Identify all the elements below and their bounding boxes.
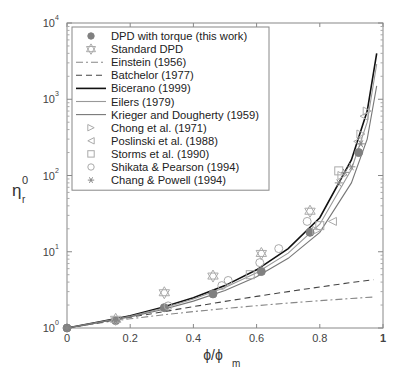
y-tick-exponent: 2	[55, 167, 59, 174]
legend-label: Batchelor (1977)	[111, 69, 194, 81]
chart: 00.20.40.60.81100101102103104 DPD with t…	[0, 0, 407, 376]
marker-hexagram	[208, 270, 218, 279]
y-axis-label-sub: r	[22, 194, 26, 205]
legend-label: Poslinski et al. (1988)	[111, 135, 218, 147]
y-tick-exponent: 1	[55, 243, 59, 250]
x-tick-label: 0.8	[312, 332, 327, 344]
y-tick-label: 10	[43, 170, 55, 182]
marker-hexagram	[256, 247, 266, 256]
marker-filled-circle	[209, 290, 217, 298]
x-tick-label: 0.6	[249, 332, 264, 344]
marker-hexagram	[305, 208, 315, 217]
legend-label: Shikata & Pearson (1994)	[111, 161, 239, 173]
x-tick-label: 1	[380, 332, 386, 344]
x-tick-label: 0.4	[186, 332, 201, 344]
marker-filled-circle	[257, 268, 265, 276]
y-axis-label-sup: 0	[22, 174, 28, 186]
x-axis-label: ϕ/ϕ	[203, 347, 223, 363]
x-axis-label-sub: m	[232, 358, 240, 369]
marker-hexagram	[256, 250, 266, 259]
legend-label: Chang & Powell (1994)	[111, 174, 226, 186]
x-tick-label: 0.2	[123, 332, 138, 344]
y-axis-label: η	[12, 181, 21, 200]
legend-label: Chong et al. (1971)	[111, 122, 207, 134]
legend-item: Shikata & Pearson (1994)	[88, 161, 240, 173]
plot-area: 00.20.40.60.81100101102103104 DPD with t…	[0, 0, 407, 376]
y-tick-label: 10	[43, 322, 55, 334]
legend-label: Krieger and Dougherty (1959)	[111, 109, 259, 121]
marker-hexagram	[208, 273, 218, 282]
y-tick-label: 10	[43, 246, 55, 258]
marker-open-circle	[275, 245, 283, 253]
y-tick-label: 10	[43, 17, 55, 29]
marker-hexagram	[305, 205, 315, 214]
legend-label: Bicerano (1999)	[111, 82, 191, 94]
x-tick-label: 0	[64, 332, 70, 344]
marker-filled-circle	[88, 33, 94, 39]
legend: DPD with torque (this work)Standard DPDE…	[72, 27, 269, 190]
legend-item: DPD with torque (this work)	[88, 30, 248, 42]
y-tick-label: 10	[43, 93, 55, 105]
legend-label: DPD with torque (this work)	[111, 30, 247, 42]
legend-label: Einstein (1956)	[111, 56, 187, 68]
y-tick-exponent: 0	[55, 319, 59, 326]
marker-open-circle	[303, 217, 311, 225]
marker-filled-circle	[355, 149, 363, 157]
y-tick-exponent: 4	[55, 14, 59, 21]
marker-open-circle	[256, 259, 264, 267]
marker-hexagram	[159, 287, 169, 296]
legend-label: Standard DPD	[111, 43, 183, 55]
marker-hexagram	[159, 290, 169, 299]
legend-label: Storms et al. (1990)	[111, 148, 210, 160]
marker-triangle-left	[328, 217, 336, 225]
legend-label: Eilers (1979)	[111, 96, 175, 108]
y-tick-exponent: 3	[55, 90, 59, 97]
